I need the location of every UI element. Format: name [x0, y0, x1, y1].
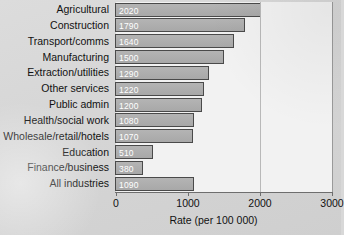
bar-row: 1790 [116, 18, 332, 34]
bar: 1640 [115, 34, 234, 48]
category-label: Manufacturing [42, 50, 109, 66]
bar: 1500 [115, 50, 224, 64]
category-label: Construction [50, 18, 109, 34]
bar: 2020 [115, 3, 261, 17]
bar-row: 1220 [116, 81, 332, 97]
bar-value-label: 1640 [119, 35, 139, 49]
bar-value-label: 1290 [119, 67, 139, 81]
bar-row: 510 [116, 145, 332, 161]
bar: 1790 [115, 18, 245, 32]
bar: 1220 [115, 82, 204, 96]
x-tick-label: 0 [113, 197, 119, 209]
gridline-2000 [260, 2, 261, 192]
x-axis-line [115, 192, 333, 193]
category-label: Education [62, 145, 109, 161]
category-label: Agricultural [56, 2, 109, 18]
bar-value-label: 1220 [119, 83, 139, 97]
category-label: Other services [41, 81, 109, 97]
category-axis-labels: AgriculturalConstructionTransport/commsM… [0, 2, 112, 192]
plot-area: 2020179016401500129012201200108010705103… [116, 2, 332, 192]
bar: 380 [115, 161, 143, 175]
bar-value-label: 1070 [119, 130, 139, 144]
bar-value-label: 1200 [119, 99, 139, 113]
bar: 510 [115, 145, 153, 159]
x-axis-title: Rate (per 100 000) [0, 214, 341, 226]
bar-value-label: 1090 [119, 178, 139, 192]
bar-value-label: 510 [119, 146, 134, 160]
x-tick-label: 3000 [320, 197, 343, 209]
bar-value-label: 1790 [119, 19, 139, 33]
bar-row: 1090 [116, 176, 332, 192]
x-axis-title-text: Rate (per 100 000) [83, 214, 257, 226]
plot-right-border [332, 2, 333, 193]
bar: 1080 [115, 113, 194, 127]
bar-row: 1640 [116, 34, 332, 50]
x-tick-mark [332, 192, 333, 196]
x-tick-mark [116, 192, 117, 196]
bar-row: 1500 [116, 50, 332, 66]
category-label: All industries [49, 176, 109, 192]
category-label: Health/social work [24, 113, 109, 129]
bar: 1290 [115, 66, 209, 80]
bar-row: 1290 [116, 65, 332, 81]
bar-row: 1200 [116, 97, 332, 113]
bar: 1070 [115, 129, 193, 143]
bar-row: 2020 [116, 2, 332, 18]
bar-value-label: 1080 [119, 114, 139, 128]
bar-value-label: 2020 [119, 4, 139, 18]
bar: 1090 [115, 177, 194, 191]
x-tick-label: 2000 [248, 197, 271, 209]
category-label: Public admin [49, 97, 109, 113]
category-label: Extraction/utilities [27, 65, 109, 81]
x-tick-mark [260, 192, 261, 196]
bar-row: 1080 [116, 113, 332, 129]
bar-value-label: 1500 [119, 51, 139, 65]
bar-row: 380 [116, 160, 332, 176]
x-tick-mark [188, 192, 189, 196]
bar-value-label: 380 [119, 162, 134, 176]
category-label: Finance/business [27, 160, 109, 176]
bar: 1200 [115, 98, 202, 112]
category-label: Wholesale/retail/hotels [3, 129, 109, 145]
category-label: Transport/comms [28, 34, 109, 50]
x-tick-label: 1000 [176, 197, 199, 209]
bar-row: 1070 [116, 129, 332, 145]
